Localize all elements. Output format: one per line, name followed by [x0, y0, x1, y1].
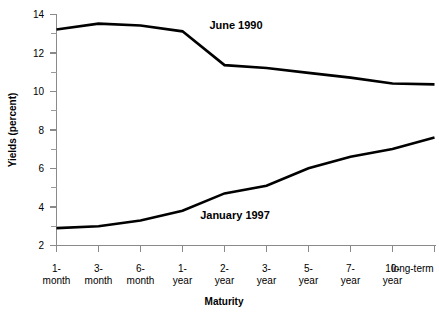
x-tick-labels-line2: month month month year year year year ye… [43, 275, 403, 286]
x-tick-label-7-year-b: year [341, 275, 361, 286]
x-tick-label-10-year-b: year [383, 275, 403, 286]
x-tick-label-1-month-b: month [43, 275, 71, 286]
x-tick-label-2-year-b: year [215, 275, 235, 286]
x-tick-label-7-year-a: 7- [346, 263, 355, 274]
x-axis-title: Maturity [205, 296, 244, 307]
y-tick-label-4: 4 [38, 202, 44, 213]
y-tick-label-2: 2 [38, 240, 44, 251]
x-tick-label-5-year-b: year [299, 275, 319, 286]
x-tick-label-1-year-b: year [173, 275, 193, 286]
y-tick-label-14: 14 [33, 9, 45, 20]
annotation-january-1997: January 1997 [200, 209, 270, 221]
x-tick-label-3-month-b: month [85, 275, 113, 286]
y-axis-major-ticks [50, 15, 57, 246]
x-tick-label-1-month-a: 1- [52, 263, 61, 274]
y-tick-label-8: 8 [38, 125, 44, 136]
x-tick-label-6-month-b: month [127, 275, 155, 286]
x-axis-ticks [57, 246, 435, 253]
x-tick-label-3-month-a: 3- [94, 263, 103, 274]
x-tick-label-5-year-a: 5- [304, 263, 313, 274]
x-tick-label-1-year-a: 1- [178, 263, 187, 274]
annotation-june-1990: June 1990 [209, 19, 262, 31]
yield-curve-chart: 14 12 10 8 6 4 2 1- 3- 6- 1- 2- 3- 5- [0, 0, 439, 314]
y-axis-title: Yields (percent) [7, 93, 18, 168]
x-tick-labels-line1: 1- 3- 6- 1- 2- 3- 5- 7- 10- long-term [52, 263, 434, 274]
y-tick-label-12: 12 [33, 48, 45, 59]
x-tick-label-long-term: long-term [391, 263, 433, 274]
y-tick-label-6: 6 [38, 163, 44, 174]
y-tick-label-10: 10 [33, 86, 45, 97]
x-tick-label-6-month-a: 6- [136, 263, 145, 274]
x-tick-label-3-year-a: 3- [262, 263, 271, 274]
chart-canvas: 14 12 10 8 6 4 2 1- 3- 6- 1- 2- 3- 5- [0, 0, 439, 314]
x-tick-label-3-year-b: year [257, 275, 277, 286]
series-line-june-1990 [57, 24, 435, 85]
x-tick-label-2-year-a: 2- [220, 263, 229, 274]
